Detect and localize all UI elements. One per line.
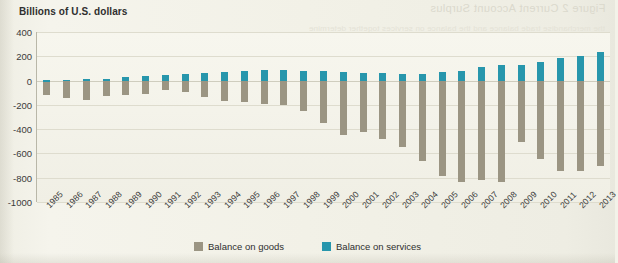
y-axis-tick-label: -800: [13, 172, 32, 183]
y-axis-tick-label: -600: [13, 148, 32, 159]
legend-item-services[interactable]: Balance on services: [322, 241, 421, 252]
bar-services-2009: [518, 65, 525, 81]
bar-services-1986: [63, 80, 70, 82]
bar-services-1989: [122, 77, 129, 81]
page-bleed-through-title: Figure 2 Current Account Surplus: [430, 2, 605, 14]
bar-services-1991: [162, 75, 169, 81]
bar-services-2005: [439, 72, 446, 80]
bar-goods-1999: [320, 81, 327, 123]
bar-goods-1990: [142, 81, 149, 94]
bar-goods-2008: [498, 81, 505, 182]
bar-goods-1997: [280, 81, 287, 105]
bar-goods-1998: [300, 81, 307, 111]
bar-services-1995: [241, 71, 248, 80]
bar-services-1985: [43, 80, 50, 82]
bar-goods-2012: [577, 81, 584, 171]
bar-goods-1996: [261, 81, 268, 104]
gridline-200: [37, 56, 610, 57]
bar-goods-2007: [478, 81, 485, 181]
gridline--800: [37, 178, 610, 179]
bar-services-1996: [261, 70, 268, 81]
bar-goods-1993: [201, 81, 208, 97]
scan-edge-shadow-left: [0, 0, 14, 263]
y-axis-tick-label: -400: [13, 124, 32, 135]
bar-services-1994: [221, 72, 228, 80]
bar-goods-2001: [360, 81, 367, 133]
bar-goods-2009: [518, 81, 525, 143]
gridline--600: [37, 153, 610, 154]
legend-swatch-services-icon: [322, 242, 331, 251]
bar-services-2011: [557, 58, 564, 81]
y-axis-tick-label: 200: [16, 51, 32, 62]
bar-services-1999: [320, 71, 327, 81]
y-axis-tick-label: -200: [13, 99, 32, 110]
chart-legend: Balance on goods Balance on services: [0, 241, 615, 252]
bar-goods-2002: [379, 81, 386, 140]
y-axis-tick-label: 400: [16, 27, 32, 38]
scan-edge-shadow-bottom: [0, 253, 615, 263]
bar-goods-2006: [458, 81, 465, 183]
legend-label-goods: Balance on goods: [208, 241, 284, 252]
gridline-400: [37, 32, 610, 33]
bar-services-1998: [300, 71, 307, 81]
bar-goods-1994: [221, 81, 228, 101]
bar-goods-1987: [83, 81, 90, 100]
bar-goods-1992: [182, 81, 189, 93]
bar-services-1987: [83, 79, 90, 81]
bar-services-1988: [103, 79, 110, 81]
bar-goods-1985: [43, 81, 50, 96]
bar-services-2010: [537, 62, 544, 81]
chart-title: Billions of U.S. dollars: [19, 6, 128, 17]
bar-goods-1991: [162, 81, 169, 90]
legend-item-goods[interactable]: Balance on goods: [194, 241, 284, 252]
plot-area: [36, 32, 610, 202]
bar-services-2003: [399, 74, 406, 80]
bar-goods-2013: [597, 81, 604, 166]
bar-services-2012: [577, 56, 584, 81]
bar-services-2013: [597, 52, 604, 80]
bar-goods-1995: [241, 81, 248, 102]
y-axis-tick-label: 0: [27, 75, 32, 86]
bar-services-1992: [182, 74, 189, 81]
bar-services-1997: [280, 70, 287, 81]
bar-goods-2003: [399, 81, 406, 147]
bar-goods-2005: [439, 81, 446, 176]
bar-goods-2000: [340, 81, 347, 136]
bar-services-1993: [201, 73, 208, 80]
bar-services-2006: [458, 71, 465, 80]
bar-goods-2011: [557, 81, 564, 171]
legend-label-services: Balance on services: [336, 241, 421, 252]
bar-goods-2004: [419, 81, 426, 162]
bar-goods-1989: [122, 81, 129, 95]
legend-swatch-goods-icon: [194, 242, 203, 251]
bar-services-2008: [498, 65, 505, 80]
bar-goods-1988: [103, 81, 110, 96]
bar-goods-1986: [63, 81, 70, 99]
x-axis: 1985198619871988198919901991199219931994…: [36, 203, 609, 239]
bar-goods-2010: [537, 81, 544, 160]
bar-services-1990: [142, 76, 149, 81]
bar-services-2000: [340, 72, 347, 81]
bar-services-2002: [379, 73, 386, 80]
bar-services-2007: [478, 67, 485, 81]
bar-services-2001: [360, 73, 367, 81]
bar-services-2004: [419, 74, 426, 81]
